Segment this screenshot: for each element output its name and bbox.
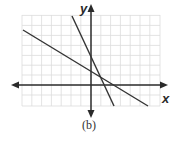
x-axis (11, 82, 168, 89)
steep-line (72, 16, 114, 106)
figure-caption: (b) (0, 118, 178, 133)
y-axis-down-arrow-icon (88, 110, 95, 118)
x-axis-right-arrow-icon (160, 82, 168, 89)
y-axis-up-arrow-icon (88, 4, 95, 12)
y-axis-label: y (79, 1, 88, 16)
x-axis-label: x (161, 91, 170, 106)
x-axis-left-arrow-icon (11, 82, 19, 89)
